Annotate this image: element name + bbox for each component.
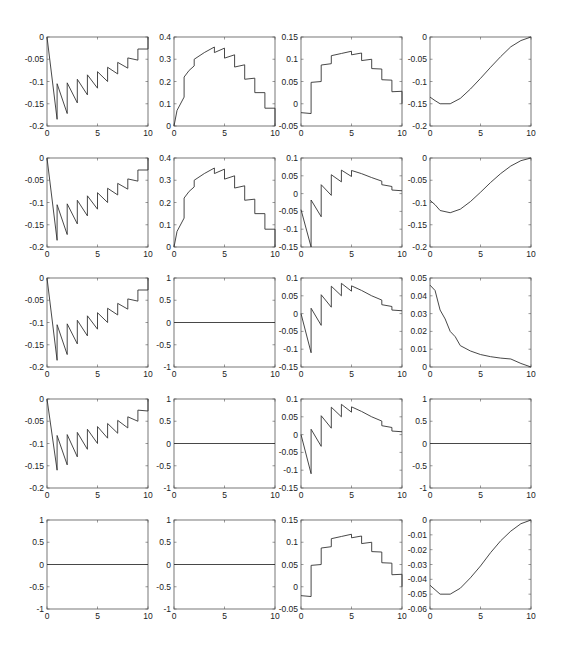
y-tick-label: -0.05 bbox=[25, 54, 45, 64]
y-tick-label: -0.05 bbox=[279, 447, 299, 457]
y-tick-label: -1 bbox=[36, 604, 44, 614]
y-tick-label: -0.15 bbox=[279, 483, 299, 493]
y-tick-label: -0.2 bbox=[29, 483, 44, 493]
subplot-r5-c3: 0.150.10.050-0.050510 bbox=[279, 515, 407, 621]
x-tick-label: 5 bbox=[95, 369, 100, 379]
y-tick-label: -0.05 bbox=[279, 604, 299, 614]
y-tick-label: 0.05 bbox=[281, 171, 298, 181]
y-tick-label: 0.05 bbox=[410, 273, 427, 283]
subplot-r5-c4: 0-0.01-0.02-0.03-0.04-0.05-0.060510 bbox=[408, 515, 536, 621]
y-tick-label: 0.05 bbox=[281, 560, 298, 570]
y-tick-label: 0.1 bbox=[159, 220, 171, 230]
x-tick-label: 10 bbox=[526, 128, 536, 138]
subplot-r2-c2: 00.10.20.30.40510 bbox=[159, 153, 280, 259]
y-tick-label: 0 bbox=[39, 153, 44, 163]
axes-box bbox=[430, 278, 531, 367]
subplot-r2-c3: 0.10.050-0.05-0.1-0.150510 bbox=[279, 153, 407, 259]
y-tick-label: 0 bbox=[293, 309, 298, 319]
y-tick-label: -0.04 bbox=[408, 574, 428, 584]
x-tick-label: 10 bbox=[526, 611, 536, 621]
y-tick-label: 0 bbox=[39, 273, 44, 283]
x-tick-label: 10 bbox=[143, 611, 153, 621]
y-tick-label: -0.15 bbox=[25, 340, 45, 350]
y-tick-label: 0.1 bbox=[286, 273, 298, 283]
x-tick-label: 0 bbox=[172, 611, 177, 621]
y-tick-label: -0.1 bbox=[412, 198, 427, 208]
y-tick-label: 0.5 bbox=[159, 537, 171, 547]
x-tick-label: 10 bbox=[397, 490, 407, 500]
subplot-r4-c2: 10.50-0.5-10510 bbox=[156, 394, 280, 500]
x-tick-label: 5 bbox=[222, 490, 227, 500]
x-tick-label: 0 bbox=[45, 490, 50, 500]
x-tick-label: 5 bbox=[478, 249, 483, 259]
y-tick-label: -0.2 bbox=[412, 242, 427, 252]
subplot-r2-c4: 0-0.05-0.1-0.15-0.20510 bbox=[408, 153, 536, 259]
x-tick-label: 10 bbox=[397, 611, 407, 621]
y-tick-label: -0.1 bbox=[29, 77, 44, 87]
y-tick-label: 0.5 bbox=[159, 416, 171, 426]
x-tick-label: 5 bbox=[349, 611, 354, 621]
y-tick-label: -0.2 bbox=[412, 121, 427, 131]
x-tick-label: 0 bbox=[299, 369, 304, 379]
y-tick-label: 0 bbox=[166, 242, 171, 252]
x-tick-label: 0 bbox=[45, 128, 50, 138]
y-tick-label: 0.1 bbox=[286, 153, 298, 163]
y-tick-label: -0.5 bbox=[412, 461, 427, 471]
x-tick-label: 0 bbox=[299, 249, 304, 259]
x-tick-label: 5 bbox=[349, 369, 354, 379]
y-tick-label: 0.04 bbox=[410, 291, 427, 301]
y-tick-label: -0.5 bbox=[156, 582, 171, 592]
subplot-r5-c2: 10.50-0.5-10510 bbox=[156, 515, 280, 621]
y-tick-label: 0 bbox=[293, 430, 298, 440]
y-tick-label: -0.02 bbox=[408, 545, 428, 555]
y-tick-label: 0.1 bbox=[159, 99, 171, 109]
y-tick-label: -0.01 bbox=[408, 530, 428, 540]
y-tick-label: 0 bbox=[422, 362, 427, 372]
y-tick-label: 0.3 bbox=[159, 54, 171, 64]
axes-box bbox=[430, 158, 531, 247]
subplot-r1-c4: 0-0.05-0.1-0.15-0.20510 bbox=[408, 32, 536, 138]
subplot-r4-c1: 0-0.05-0.1-0.15-0.20510 bbox=[25, 394, 153, 500]
y-tick-label: 0.1 bbox=[286, 537, 298, 547]
y-tick-label: 0.15 bbox=[281, 32, 298, 42]
y-tick-label: -0.5 bbox=[156, 461, 171, 471]
x-tick-label: 5 bbox=[349, 249, 354, 259]
y-tick-label: 0.4 bbox=[159, 32, 171, 42]
x-tick-label: 10 bbox=[143, 128, 153, 138]
y-tick-label: -1 bbox=[163, 604, 171, 614]
y-tick-label: 1 bbox=[166, 515, 171, 525]
y-tick-label: -1 bbox=[163, 483, 171, 493]
y-tick-label: 0 bbox=[39, 32, 44, 42]
y-tick-label: 0.15 bbox=[281, 515, 298, 525]
y-tick-label: -0.15 bbox=[279, 242, 299, 252]
y-tick-label: 0.1 bbox=[286, 394, 298, 404]
y-tick-label: 0 bbox=[39, 394, 44, 404]
x-tick-label: 5 bbox=[478, 611, 483, 621]
y-tick-label: 1 bbox=[422, 394, 427, 404]
x-tick-label: 5 bbox=[222, 128, 227, 138]
y-tick-label: -0.05 bbox=[279, 326, 299, 336]
y-tick-label: -0.1 bbox=[412, 77, 427, 87]
x-tick-label: 5 bbox=[95, 490, 100, 500]
y-tick-label: 0.4 bbox=[159, 153, 171, 163]
subplot-r1-c2: 00.10.20.30.40510 bbox=[159, 32, 280, 138]
y-tick-label: -0.2 bbox=[29, 362, 44, 372]
y-tick-label: 0.2 bbox=[159, 77, 171, 87]
x-tick-label: 5 bbox=[95, 611, 100, 621]
y-tick-label: -0.1 bbox=[29, 198, 44, 208]
x-tick-label: 0 bbox=[172, 490, 177, 500]
y-tick-label: 0 bbox=[166, 439, 171, 449]
y-tick-label: -0.5 bbox=[29, 582, 44, 592]
y-tick-label: -0.05 bbox=[408, 589, 428, 599]
x-tick-label: 5 bbox=[95, 249, 100, 259]
x-tick-label: 5 bbox=[222, 611, 227, 621]
subplot-grid-figure: 0-0.05-0.1-0.15-0.2051000.10.20.30.40510… bbox=[0, 0, 563, 650]
x-tick-label: 10 bbox=[143, 369, 153, 379]
subplot-r3-c4: 0.050.040.030.020.0100510 bbox=[410, 273, 536, 379]
x-tick-label: 0 bbox=[45, 611, 50, 621]
y-tick-label: 0 bbox=[166, 318, 171, 328]
y-tick-label: -0.15 bbox=[408, 99, 428, 109]
y-tick-label: 0 bbox=[422, 515, 427, 525]
subplot-r3-c2: 10.50-0.5-10510 bbox=[156, 273, 280, 379]
y-tick-label: 1 bbox=[39, 515, 44, 525]
